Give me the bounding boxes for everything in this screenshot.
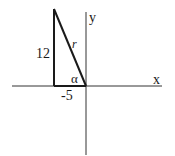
- horizontal-leg-label: -5: [61, 88, 73, 103]
- hypotenuse-label: r: [72, 37, 77, 51]
- diagram-canvas: y x 12 r α -5: [0, 0, 175, 156]
- y-axis-label: y: [89, 10, 96, 25]
- vertical-leg-label: 12: [36, 46, 50, 61]
- hypotenuse: [54, 9, 86, 86]
- coordinate-diagram: y x 12 r α -5: [0, 0, 175, 156]
- x-axis-label: x: [153, 72, 160, 87]
- angle-label: α: [71, 71, 78, 86]
